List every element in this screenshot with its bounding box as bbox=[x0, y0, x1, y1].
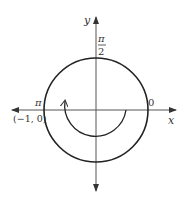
unit-circle-diagram: y x π 2 π 0 (−1, 0) bbox=[0, 0, 187, 200]
rotation-arc bbox=[65, 101, 126, 136]
label-pi-over-2-numerator: π bbox=[97, 33, 105, 44]
label-point-minus-one-zero: (−1, 0) bbox=[13, 113, 47, 124]
label-pi-over-2-denominator: 2 bbox=[98, 46, 104, 57]
x-axis-label: x bbox=[168, 114, 175, 127]
y-axis-label: y bbox=[83, 14, 91, 27]
label-zero: 0 bbox=[148, 97, 154, 108]
label-pi: π bbox=[34, 97, 42, 108]
